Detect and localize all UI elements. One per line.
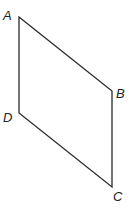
vertex-label-a: A bbox=[2, 8, 12, 23]
parallelogram-abcd bbox=[19, 17, 112, 187]
vertex-label-d: D bbox=[3, 110, 12, 125]
vertex-label-c: C bbox=[113, 189, 123, 204]
vertex-label-b: B bbox=[116, 86, 125, 101]
parallelogram-diagram: A B C D bbox=[0, 0, 133, 212]
